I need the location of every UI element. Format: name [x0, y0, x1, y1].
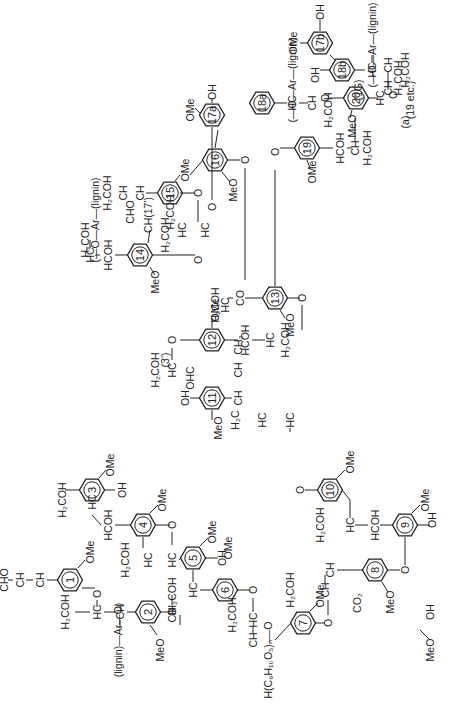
group-label: MeO — [384, 591, 396, 614]
group-label: O — [294, 486, 306, 494]
group-label: H₂COH — [166, 578, 178, 613]
group-label: OH — [426, 512, 438, 528]
group-label: (—O—Ar—(lignin) — [366, 2, 378, 87]
group-label: H₂COH — [361, 131, 373, 166]
group-label: HCOH — [369, 510, 381, 541]
group-label: H₂COH — [56, 483, 68, 518]
unit-number: 7 — [297, 620, 309, 626]
group-label: (—O—Ar—(lignin) — [89, 177, 101, 262]
group-label: H₂COH — [284, 573, 296, 608]
unit-number: 6 — [219, 587, 231, 593]
bond-line — [330, 55, 335, 60]
group-label: HC — [264, 332, 276, 348]
group-label: CO₂ — [351, 593, 363, 613]
unit-number: 11 — [206, 392, 218, 403]
benzene-ring-unit-10: 10 — [318, 479, 343, 501]
group-label: H₂COH — [226, 598, 238, 633]
group-label: CH — [232, 362, 244, 377]
group-label: O — [322, 619, 334, 627]
group-label: (19 etc.) — [404, 81, 416, 120]
group-label: H₂COH — [159, 218, 171, 253]
group-label: MeO — [212, 417, 224, 440]
group-label: OHC — [184, 366, 196, 390]
unit-number: 14 — [134, 249, 146, 261]
group-label: OMe — [184, 98, 196, 121]
group-label: HCOH — [102, 510, 114, 541]
group-label: O — [247, 586, 259, 594]
unit-number: 17a — [206, 105, 218, 124]
group-label: CH — [14, 572, 26, 587]
group-label: (lignin)—Ar—O) — [112, 603, 124, 678]
unit-number: 4 — [137, 522, 149, 528]
group-label: HCOH — [334, 133, 346, 164]
bond-line — [215, 130, 218, 148]
group-label: MeO — [284, 314, 296, 337]
group-label: OMe — [84, 540, 96, 563]
benzene-ring-unit-19: 19 — [295, 137, 320, 159]
group-label: O — [91, 590, 103, 598]
unit-number: 5 — [187, 555, 199, 561]
unit-number: 12 — [206, 334, 218, 346]
group-label: H₂COH — [59, 595, 71, 630]
benzene-ring-unit-18b: 18b — [330, 59, 355, 81]
bond-line — [92, 515, 101, 525]
group-label: OMe — [344, 450, 356, 473]
group-label: O — [296, 294, 308, 302]
group-label: CH(17') — [142, 197, 154, 233]
group-label: H₂COH — [101, 176, 113, 211]
benzene-ring-unit-14: 14 — [128, 244, 153, 266]
lignin-structure-diagram: 12345678910111213141516192017a18a17b18bC… — [0, 0, 458, 722]
benzene-ring-unit-2: 2 — [136, 601, 161, 623]
unit-number: 3 — [86, 487, 98, 493]
group-label: CHO — [124, 200, 136, 223]
unit-number: 10 — [324, 484, 336, 496]
group-label: MeO — [149, 271, 161, 294]
benzene-ring-unit-16: 16 — [203, 149, 228, 171]
group-label: O — [239, 156, 251, 164]
group-label: OMe — [179, 158, 191, 181]
group-label: O — [206, 203, 218, 211]
bond-line — [150, 625, 157, 635]
bond-line — [420, 630, 430, 640]
bond-line — [190, 160, 203, 175]
unit-number: 16 — [209, 154, 221, 166]
group-label: OH — [314, 4, 326, 20]
group-label: CH — [306, 95, 318, 110]
group-label: O — [166, 336, 178, 344]
group-label: OH — [179, 390, 191, 406]
benzene-ring-unit-9: 9 — [393, 514, 418, 536]
group-label: CH — [324, 562, 336, 577]
unit-number: 2 — [142, 609, 154, 615]
group-label: CH — [319, 582, 331, 597]
benzene-ring-unit-17a: 17a — [200, 104, 225, 126]
group-label: HC — [284, 412, 296, 428]
unit-number: 13 — [269, 292, 281, 304]
benzene-ring-unit-17b: 17b — [308, 32, 333, 54]
benzene-ring-unit-4: 4 — [131, 514, 156, 536]
group-label: HC — [344, 517, 356, 533]
group-label: (1G) — [352, 80, 364, 101]
group-label: CH — [117, 185, 129, 200]
unit-number: 19 — [301, 142, 313, 154]
unit-number: 17b — [314, 34, 326, 52]
bond-line — [179, 558, 181, 560]
group-label: HC — [91, 604, 103, 620]
group-label: CH — [232, 390, 244, 405]
unit-number: 18b — [336, 61, 348, 79]
benzene-ring-unit-13: 13 — [263, 287, 288, 309]
group-label: HCOH — [102, 240, 114, 271]
group-label: HC — [199, 222, 211, 238]
group-label: OH — [206, 84, 218, 100]
benzene-ring-unit-5: 5 — [181, 547, 206, 569]
group-label: CH — [349, 140, 361, 155]
group-label: CH — [34, 572, 46, 587]
unit-number: 8 — [369, 567, 381, 573]
benzene-ring-unit-7: 7 — [291, 612, 316, 634]
group-label: CHO — [0, 568, 10, 591]
group-label: OH — [116, 482, 128, 498]
structure-svg: 12345678910111213141516192017a18a17b18bC… — [0, 0, 458, 722]
group-label: OMe — [206, 520, 218, 543]
group-label: OMe — [306, 160, 318, 183]
group-label: HC — [166, 552, 178, 568]
group-label: OMe — [419, 488, 431, 511]
